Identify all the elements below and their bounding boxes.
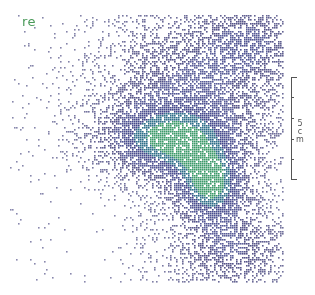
scale-bar-tick bbox=[291, 139, 294, 140]
scale-bar-tick bbox=[291, 118, 294, 119]
scale-bar-label: 5 c m bbox=[296, 120, 304, 144]
image-label: re bbox=[22, 14, 36, 29]
scale-bar-tick bbox=[291, 97, 294, 98]
scale-bar-tick bbox=[291, 159, 294, 160]
scale-bar-cap-bottom bbox=[291, 179, 297, 180]
scale-bar-cap-top bbox=[291, 77, 297, 78]
density-scatter-plot bbox=[0, 0, 315, 295]
